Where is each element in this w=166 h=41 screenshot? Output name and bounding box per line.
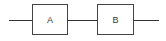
input-line bbox=[9, 20, 33, 21]
connector-a-b bbox=[67, 20, 98, 21]
block-b: B bbox=[97, 4, 134, 35]
block-a: A bbox=[32, 4, 68, 35]
block-a-label: A bbox=[47, 15, 53, 25]
block-b-label: B bbox=[112, 15, 118, 25]
output-line bbox=[133, 20, 159, 21]
